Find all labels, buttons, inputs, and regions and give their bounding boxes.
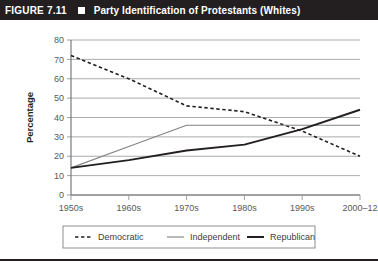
y-axis-title: Percentage — [24, 92, 35, 143]
chart-render-group: 01020304050607080Percentage1950s1960s197… — [24, 35, 378, 248]
figure-title-label: Party Identification of Protestants (Whi… — [94, 5, 301, 16]
x-tick-label: 1950s — [59, 203, 84, 213]
x-tick-label: 1960s — [117, 203, 142, 213]
figure-number-label: FIGURE 7.11 — [5, 5, 67, 16]
figure-bottom-rule — [0, 259, 378, 261]
legend-label-republican: Republican — [270, 232, 315, 242]
legend-label-democratic: Democratic — [98, 232, 144, 242]
x-tick-label: 1970s — [174, 203, 199, 213]
y-tick-label: 0 — [59, 190, 64, 200]
figure-container: FIGURE 7.11 Party Identification of Prot… — [0, 0, 378, 263]
x-tick-label: 2000–12 — [342, 203, 377, 213]
y-tick-label: 40 — [54, 113, 64, 123]
y-tick-label: 60 — [54, 74, 64, 84]
series-line-republican — [71, 110, 360, 168]
y-tick-label: 30 — [54, 132, 64, 142]
series-line-democratic — [71, 56, 360, 157]
x-tick-label: 1990s — [290, 203, 315, 213]
legend-label-independent: Independent — [190, 232, 241, 242]
line-chart: 01020304050607080Percentage1950s1960s197… — [0, 20, 378, 259]
y-tick-label: 10 — [54, 171, 64, 181]
y-tick-label: 50 — [54, 93, 64, 103]
figure-header-bar: FIGURE 7.11 Party Identification of Prot… — [0, 0, 378, 20]
y-tick-label: 70 — [54, 55, 64, 65]
x-tick-label: 1980s — [232, 203, 257, 213]
filled-square-icon — [78, 7, 85, 14]
y-tick-label: 80 — [54, 35, 64, 45]
y-tick-label: 20 — [54, 151, 64, 161]
